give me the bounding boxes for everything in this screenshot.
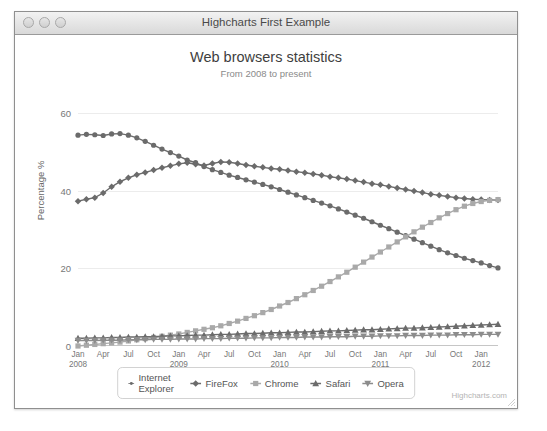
data-point-marker [134, 135, 139, 140]
legend-label: Opera [377, 378, 403, 389]
legend-item-safari[interactable]: Safari [311, 378, 351, 389]
data-point-marker [218, 323, 223, 328]
data-point-marker [369, 180, 376, 187]
square-marker-icon [250, 378, 261, 389]
data-point-marker [117, 131, 122, 136]
data-point-marker [352, 177, 359, 184]
legend-label: Internet Explorer [138, 372, 178, 394]
data-point-marker [293, 168, 300, 175]
data-point-marker [277, 303, 282, 308]
data-point-marker [411, 188, 418, 195]
series-firefox [75, 159, 502, 205]
data-point-marker [361, 260, 366, 265]
data-point-marker [252, 313, 257, 318]
data-point-marker [428, 244, 433, 249]
data-point-marker [445, 211, 450, 216]
x-tick-label: Oct [349, 350, 362, 359]
data-point-marker [260, 310, 265, 315]
data-point-marker [218, 159, 225, 166]
series-chrome [75, 197, 500, 349]
data-point-marker [260, 182, 265, 187]
data-point-marker [210, 167, 215, 172]
data-point-marker [218, 170, 223, 175]
data-point-marker [344, 209, 349, 214]
chart-subtitle: From 2008 to present [15, 68, 517, 79]
legend-label: Safari [326, 378, 351, 389]
y-tick-label: 0 [66, 341, 71, 352]
series-line [78, 200, 498, 346]
x-tick-label: Jan [374, 350, 387, 359]
legend-label: FireFox [206, 378, 238, 389]
plot-area: 0204060 JanAprJulOctJanAprJulOctJanAprJu… [78, 113, 498, 346]
data-point-marker [294, 296, 299, 301]
diamond-marker-icon [191, 378, 202, 389]
data-point-marker [420, 240, 425, 245]
legend-item-firefox[interactable]: FireFox [191, 378, 238, 389]
series-line [78, 134, 498, 268]
x-tick-label: Jan [71, 350, 84, 359]
data-point-marker [75, 198, 82, 205]
data-point-marker [344, 270, 349, 275]
data-point-marker [437, 215, 442, 220]
x-year-label: 2008 [69, 360, 87, 369]
window-titlebar[interactable]: Highcharts First Example [15, 12, 517, 35]
data-point-marker [487, 263, 492, 268]
data-point-marker [360, 179, 367, 186]
x-tick-label: Apr [298, 350, 311, 359]
data-point-marker [311, 198, 316, 203]
data-point-marker [117, 178, 124, 185]
data-point-marker [378, 223, 383, 228]
legend-item-opera[interactable]: Opera [362, 378, 403, 389]
data-point-marker [470, 258, 475, 263]
data-point-marker [369, 219, 374, 224]
data-point-marker [125, 175, 131, 182]
data-point-marker [386, 226, 391, 231]
data-point-marker [253, 380, 258, 385]
data-point-marker [83, 196, 90, 203]
data-point-marker [487, 198, 492, 203]
data-point-marker [377, 182, 384, 189]
data-point-marker [269, 184, 274, 189]
data-point-marker [378, 249, 383, 254]
x-tick-label: Jul [224, 350, 234, 359]
data-point-marker [319, 284, 324, 289]
data-point-marker [243, 316, 248, 321]
data-point-marker [92, 194, 99, 201]
series-layer [78, 113, 498, 346]
application-window: Highcharts First Example Web browsers st… [14, 11, 518, 409]
data-point-marker [344, 176, 351, 183]
data-point-marker [176, 154, 181, 159]
data-point-marker [462, 256, 467, 261]
data-point-marker [109, 131, 114, 136]
data-point-marker [276, 166, 283, 173]
data-point-marker [420, 225, 425, 230]
data-point-marker [437, 247, 442, 252]
x-tick-label: Jan [172, 350, 185, 359]
data-point-marker [445, 250, 450, 255]
x-tick-label: Jan [273, 350, 286, 359]
data-point-marker [235, 319, 240, 324]
legend-item-chrome[interactable]: Chrome [250, 378, 299, 389]
data-point-marker [168, 150, 173, 155]
y-tick-label: 20 [60, 263, 71, 274]
data-point-marker [302, 292, 307, 297]
data-point-marker [327, 173, 334, 180]
data-point-marker [419, 189, 426, 196]
y-axis-label: Percentage % [35, 136, 46, 246]
data-point-marker [150, 167, 157, 174]
resize-grip-icon[interactable] [504, 395, 516, 407]
data-point-marker [234, 160, 241, 167]
legend-item-internet-explorer[interactable]: Internet Explorer [128, 372, 178, 394]
data-point-marker [369, 254, 374, 259]
data-point-marker [167, 163, 174, 170]
data-point-marker [495, 265, 500, 270]
x-tick-label: Jan [475, 350, 488, 359]
data-point-marker [479, 260, 484, 265]
data-point-marker [453, 207, 458, 212]
highcharts-chart: Web browsers statistics From 2008 to pre… [15, 35, 517, 409]
x-year-label: 2012 [472, 360, 490, 369]
triangle-down-marker-icon [362, 378, 373, 389]
data-point-marker [101, 133, 106, 138]
legend-label: Chrome [265, 378, 299, 389]
data-point-marker [311, 288, 316, 293]
